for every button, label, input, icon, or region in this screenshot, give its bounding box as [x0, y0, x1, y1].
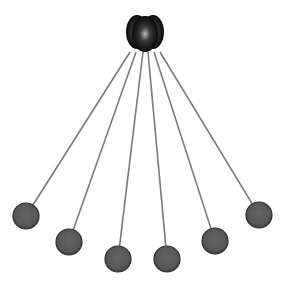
strings-group	[33, 52, 252, 246]
pendulum-ball-6	[246, 202, 272, 228]
hub-group	[126, 15, 164, 52]
string-1	[33, 52, 130, 205]
balls-group	[13, 202, 272, 272]
hub-lobe-3	[132, 16, 158, 52]
string-2	[73, 52, 136, 230]
pendulum-ball-4	[154, 246, 180, 272]
pendulum-graphic	[0, 0, 286, 283]
pendulum-ball-1	[13, 203, 39, 229]
pendulum-ball-2	[56, 229, 82, 255]
pendulum-ball-3	[105, 246, 131, 272]
pendulum-ball-5	[202, 228, 228, 254]
string-3	[120, 52, 143, 246]
string-6	[160, 52, 252, 204]
pendulum-illustration	[0, 0, 286, 283]
